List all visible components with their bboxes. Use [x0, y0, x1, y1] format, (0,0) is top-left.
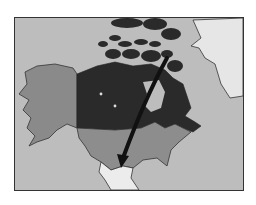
lake-marker: [114, 105, 117, 108]
north-america-map: [15, 18, 243, 190]
lake-marker: [100, 93, 103, 96]
map-frame: [14, 17, 244, 191]
